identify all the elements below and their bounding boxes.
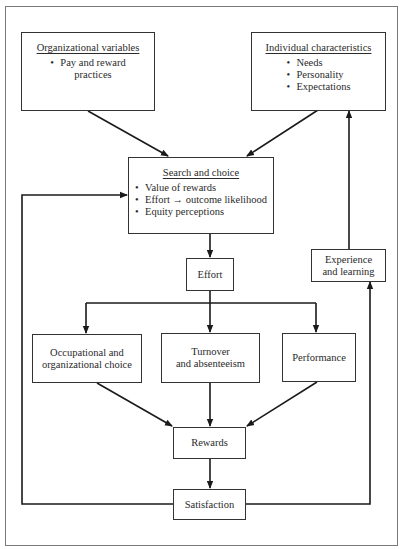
node-label: Rewards [191, 437, 228, 449]
node-rewards: Rewards [173, 427, 246, 459]
arrow-org-to-search [88, 111, 168, 156]
node-organizational-variables: Organizational variables Pay and reward … [21, 32, 155, 111]
node-label-line2: and learning [322, 266, 374, 278]
bullet-item: Effort → outcome likelihood [135, 194, 267, 206]
node-individual-characteristics: Individual characteristics Needs Persona… [251, 32, 386, 111]
bullet-item: Pay and reward [50, 57, 125, 69]
bullet-list: Pay and reward [50, 57, 125, 69]
bullet-item: Personality [286, 69, 350, 81]
bullet-item: Equity perceptions [135, 206, 267, 218]
node-label-line2: organizational choice [42, 359, 132, 371]
node-label-line1: Occupational and [50, 347, 124, 359]
node-label: Satisfaction [185, 499, 235, 511]
node-effort: Effort [186, 258, 234, 291]
node-occupational-choice: Occupational and organizational choice [32, 334, 142, 383]
arrow-occupational-to-rewards [97, 383, 172, 426]
node-label-line1: Experience [325, 254, 372, 266]
bullet-item: Expectations [286, 81, 350, 93]
node-label-line1: Turnover [191, 346, 230, 358]
node-title: Organizational variables [37, 42, 140, 54]
arrow-satisfaction-to-experience [246, 282, 370, 504]
node-turnover-and-absenteeism: Turnover and absenteeism [161, 333, 260, 383]
bullet-item-continuation: practices [64, 69, 111, 81]
node-title: Search and choice [163, 167, 239, 179]
node-experience-and-learning: Experience and learning [311, 249, 386, 282]
node-performance: Performance [282, 333, 356, 382]
node-satisfaction: Satisfaction [173, 489, 246, 520]
bullet-item: Needs [286, 57, 350, 69]
arrow-right-icon: → [173, 194, 184, 205]
bullet-list: Value of rewards Effort → outcome likeli… [135, 182, 267, 218]
arrow-indiv-to-search [247, 110, 318, 156]
node-label: Effort [198, 269, 223, 281]
node-search-and-choice: Search and choice Value of rewards Effor… [128, 157, 274, 234]
node-title: Individual characteristics [266, 42, 372, 54]
arrow-performance-to-rewards [247, 382, 317, 426]
bullet-list: Needs Personality Expectations [286, 57, 350, 93]
bullet-item: Value of rewards [135, 182, 267, 194]
node-label: Performance [292, 352, 346, 364]
node-label-line2: and absenteeism [176, 358, 245, 370]
